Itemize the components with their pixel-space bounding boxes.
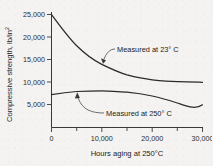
x-ticklabel-20000: 20,000 — [141, 134, 163, 143]
x-ticklabel-30000: 30,000 — [192, 134, 212, 143]
y-axis-label-exponent: 2 — [4, 27, 10, 30]
annotation-23c-arrowhead — [101, 58, 106, 64]
y-ticklabel-10000: 10,000 — [23, 78, 45, 87]
annotation-23c-text: Measured at 23° C — [117, 45, 179, 54]
figure-container: Compressive strength, lb/in2 25,000 20,0… — [0, 0, 212, 166]
y-axis-ticks — [47, 15, 52, 105]
x-axis-ticklabels: 0 10,000 20,000 30,000 — [50, 134, 213, 143]
y-axis-ticklabels: 25,000 20,000 15,000 10,000 5,000 — [23, 10, 45, 109]
y-ticklabel-25000: 25,000 — [23, 10, 45, 19]
curve-measured-at-250c — [52, 91, 203, 108]
y-axis-label: Compressive strength, lb/in2 — [4, 27, 14, 122]
x-ticklabel-10000: 10,000 — [91, 134, 113, 143]
y-ticklabel-5000: 5,000 — [27, 100, 45, 109]
annotation-250c: Measured at 250° C — [75, 92, 173, 117]
annotation-250c-leader — [78, 98, 104, 114]
x-ticklabel-0: 0 — [50, 134, 54, 143]
x-axis-title: Hours aging at 250°C — [91, 149, 164, 158]
annotation-23c: Measured at 23° C — [101, 45, 179, 64]
x-axis-ticks — [52, 128, 203, 133]
y-ticklabel-15000: 15,000 — [23, 55, 45, 64]
svg-text:Compressive strength, lb/in2: Compressive strength, lb/in2 — [4, 27, 14, 122]
annotation-250c-text: Measured at 250° C — [106, 109, 172, 118]
chart-svg: Compressive strength, lb/in2 25,000 20,0… — [0, 0, 212, 166]
annotation-250c-arrowhead — [75, 92, 80, 98]
annotation-23c-leader — [104, 49, 116, 61]
y-axis-label-text: Compressive strength, lb/in — [5, 30, 14, 122]
y-ticklabel-20000: 20,000 — [23, 33, 45, 42]
